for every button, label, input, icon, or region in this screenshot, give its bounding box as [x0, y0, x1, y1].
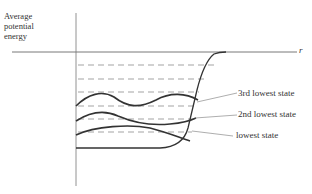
label-third-state: 3rd lowest state — [238, 88, 295, 98]
leader-3rd — [197, 93, 237, 102]
potential-well-curve — [76, 52, 226, 148]
label-lowest-state: lowest state — [236, 130, 278, 140]
second-state-wave — [76, 113, 196, 125]
leader-2nd — [195, 115, 237, 118]
lowest-state-wave — [76, 126, 190, 141]
leader-lowest — [192, 131, 233, 136]
label-second-state: 2nd lowest state — [238, 109, 296, 119]
third-state-wave — [76, 94, 198, 106]
